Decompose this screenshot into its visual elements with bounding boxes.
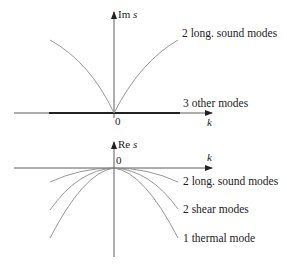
re-sound-curve-right: [114, 168, 178, 182]
bottom-plot: Re s 0 k 2 long. sound modes 2 shear mod…: [14, 138, 279, 257]
bottom-sound-label: 2 long. sound modes: [183, 175, 279, 188]
bottom-thermal-label: 1 thermal mode: [183, 232, 255, 244]
im-sound-curve-right: [114, 40, 178, 113]
dispersion-diagram: Im s 0 k 2 long. sound modes 3 other mod…: [0, 0, 287, 269]
top-sound-label: 2 long. sound modes: [182, 27, 278, 40]
top-other-modes-label: 3 other modes: [183, 97, 249, 109]
top-plot: Im s 0 k 2 long. sound modes 3 other mod…: [14, 8, 278, 128]
im-sound-curve-left: [50, 40, 114, 113]
bottom-shear-label: 2 shear modes: [183, 203, 249, 215]
re-sound-curve-left: [50, 168, 114, 182]
bottom-origin-label: 0: [116, 154, 122, 166]
top-x-axis-label: k: [207, 116, 213, 128]
bottom-x-axis-label: k: [207, 151, 213, 163]
bottom-y-axis-label: Re s: [118, 138, 137, 150]
top-y-axis-label: Im s: [118, 8, 137, 20]
top-origin-label: 0: [115, 115, 121, 127]
